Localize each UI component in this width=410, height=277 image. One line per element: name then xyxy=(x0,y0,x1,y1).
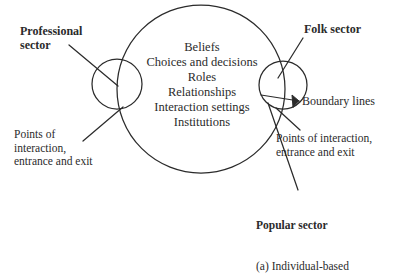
diagram-canvas: Beliefs Choices and decisions Roles Rela… xyxy=(0,0,410,277)
core-concept-line: Interaction settings xyxy=(122,100,282,115)
points-of-interaction-right-label: Points of interaction, entrance and exit xyxy=(276,132,372,159)
core-concepts-text: Beliefs Choices and decisions Roles Rela… xyxy=(122,40,282,130)
boundary-arrowhead-icon xyxy=(292,95,299,107)
core-concept-line: Beliefs xyxy=(122,40,282,55)
core-concept-line: Institutions xyxy=(122,115,282,130)
core-concept-line: Choices and decisions xyxy=(122,55,282,70)
popular-sector-heading: Popular sector xyxy=(256,219,361,233)
core-concept-line: Roles xyxy=(122,70,282,85)
core-concept-line: Relationships xyxy=(122,85,282,100)
points-of-interaction-left-label: Points of interaction, entrance and exit xyxy=(14,128,93,169)
boundary-lines-label: Boundary lines xyxy=(302,94,375,108)
popular-sector-item: (a) Individual-based xyxy=(256,260,361,274)
popular-sector-block: Popular sector (a) Individual-based (b) … xyxy=(256,192,361,277)
professional-sector-label: Professional sector xyxy=(20,24,82,52)
folk-sector-label: Folk sector xyxy=(304,22,361,36)
